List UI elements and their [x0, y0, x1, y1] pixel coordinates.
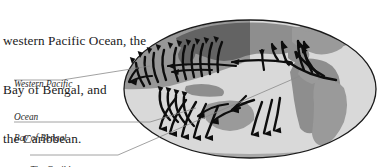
callout-label-the-caribbean: The Caribbean: [30, 143, 86, 167]
figure-world-cyclone-tracks: western Pacific Ocean, the Bay of Bengal…: [0, 0, 388, 167]
callout-label-the-caribbean-line-1: The Caribbean: [30, 165, 86, 167]
callout-label-western-pacific-ocean-line-1: Western Pacific: [14, 79, 72, 90]
